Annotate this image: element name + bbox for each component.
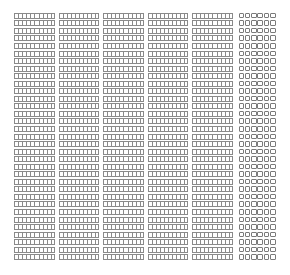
missing-glyph-box-icon <box>264 103 270 109</box>
missing-glyph-box-icon <box>245 118 251 124</box>
missing-glyph-box-icon <box>251 58 257 64</box>
missing-glyph-box-icon <box>95 217 99 223</box>
missing-glyph-box-icon <box>95 103 99 109</box>
glyph-cell <box>103 80 144 88</box>
missing-glyph-box-icon <box>140 141 144 147</box>
missing-glyph-box-icon <box>270 141 276 147</box>
missing-glyph-box-icon <box>264 254 270 260</box>
missing-glyph-box-icon <box>95 141 99 147</box>
missing-glyph-box-icon <box>257 81 263 87</box>
missing-glyph-box-icon <box>239 96 245 102</box>
missing-glyph-box-icon <box>140 118 144 124</box>
missing-glyph-box-icon <box>251 35 257 41</box>
glyph-cell <box>237 246 275 254</box>
missing-glyph-box-icon <box>245 28 251 34</box>
missing-glyph-box-icon <box>251 134 257 140</box>
glyph-cell <box>148 57 189 65</box>
missing-glyph-box-icon <box>51 149 55 155</box>
missing-glyph-box-icon <box>264 224 270 230</box>
glyph-cell <box>148 201 189 209</box>
missing-glyph-box-icon <box>140 239 144 245</box>
glyph-cell <box>148 42 189 50</box>
missing-glyph-box-icon <box>270 239 276 245</box>
missing-glyph-box-icon <box>229 194 233 200</box>
missing-glyph-box-icon <box>245 232 251 238</box>
missing-glyph-box-icon <box>270 58 276 64</box>
missing-glyph-box-icon <box>229 164 233 170</box>
missing-glyph-box-icon <box>270 149 276 155</box>
missing-glyph-box-icon <box>270 179 276 185</box>
missing-glyph-box-icon <box>245 81 251 87</box>
missing-glyph-box-icon <box>257 103 263 109</box>
glyph-cell <box>237 254 275 262</box>
missing-glyph-box-icon <box>239 126 245 132</box>
glyph-cell <box>237 103 275 111</box>
missing-glyph-box-icon <box>229 224 233 230</box>
missing-glyph-box-icon <box>264 149 270 155</box>
missing-glyph-box-icon <box>257 88 263 94</box>
missing-glyph-box-icon <box>95 239 99 245</box>
missing-glyph-box-icon <box>264 81 270 87</box>
glyph-cell <box>103 133 144 141</box>
missing-glyph-box-icon <box>251 51 257 57</box>
missing-glyph-box-icon <box>264 247 270 253</box>
missing-glyph-box-icon <box>257 28 263 34</box>
missing-glyph-box-icon <box>140 35 144 41</box>
missing-glyph-box-icon <box>264 88 270 94</box>
glyph-cell <box>14 35 55 43</box>
glyph-cell <box>103 27 144 35</box>
missing-glyph-box-icon <box>270 186 276 192</box>
glyph-cell <box>14 65 55 73</box>
glyph-cell <box>14 125 55 133</box>
missing-glyph-box-icon <box>245 171 251 177</box>
missing-glyph-box-icon <box>184 209 188 215</box>
glyph-cell <box>103 20 144 28</box>
glyph-cell <box>192 140 233 148</box>
missing-glyph-box-icon <box>95 96 99 102</box>
missing-glyph-box-icon <box>264 186 270 192</box>
missing-glyph-box-icon <box>140 58 144 64</box>
missing-glyph-box-icon <box>239 232 245 238</box>
glyph-cell <box>237 50 275 58</box>
missing-glyph-box-icon <box>257 156 263 162</box>
missing-glyph-box-icon <box>251 156 257 162</box>
missing-glyph-box-icon <box>257 66 263 72</box>
missing-glyph-box-icon <box>95 28 99 34</box>
missing-glyph-box-icon <box>140 43 144 49</box>
missing-glyph-box-icon <box>239 43 245 49</box>
missing-glyph-box-icon <box>229 96 233 102</box>
glyph-cell <box>237 148 275 156</box>
glyph-cell <box>192 148 233 156</box>
missing-glyph-box-icon <box>184 35 188 41</box>
missing-glyph-box-icon <box>257 43 263 49</box>
glyph-cell <box>148 208 189 216</box>
missing-glyph-box-icon <box>95 224 99 230</box>
glyph-cell <box>237 140 275 148</box>
missing-glyph-box-icon <box>257 186 263 192</box>
missing-glyph-box-icon <box>239 88 245 94</box>
missing-glyph-box-icon <box>51 118 55 124</box>
glyph-cell <box>148 254 189 262</box>
missing-glyph-box-icon <box>257 232 263 238</box>
glyph-cell <box>59 72 100 80</box>
glyph-cell <box>14 223 55 231</box>
missing-glyph-box-icon <box>229 247 233 253</box>
missing-glyph-box-icon <box>140 88 144 94</box>
glyph-cell <box>148 238 189 246</box>
missing-glyph-box-icon <box>95 126 99 132</box>
missing-glyph-box-icon <box>140 81 144 87</box>
glyph-cell <box>237 201 275 209</box>
missing-glyph-box-icon <box>264 201 270 207</box>
missing-glyph-box-icon <box>245 186 251 192</box>
glyph-cell <box>14 186 55 194</box>
missing-glyph-box-icon <box>229 66 233 72</box>
missing-glyph-box-icon <box>245 126 251 132</box>
missing-glyph-box-icon <box>239 118 245 124</box>
missing-glyph-box-icon <box>184 217 188 223</box>
missing-glyph-box-icon <box>229 134 233 140</box>
missing-glyph-box-icon <box>270 73 276 79</box>
missing-glyph-box-icon <box>239 224 245 230</box>
glyph-cell <box>148 148 189 156</box>
missing-glyph-box-icon <box>245 194 251 200</box>
missing-glyph-box-icon <box>270 209 276 215</box>
